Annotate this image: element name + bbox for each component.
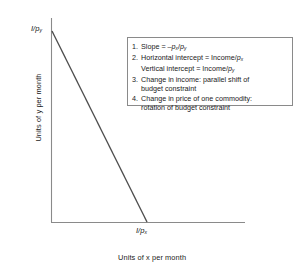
budget-constraint-figure: Units of y per month Units of x per mont…	[0, 0, 306, 278]
note-number: 4.	[132, 94, 141, 103]
note-number: 1.	[132, 42, 141, 51]
notes-legend-box: 1.Slope = –px/py2.Horizontal intercept =…	[127, 37, 293, 106]
vertical-intercept-label: I/py	[31, 24, 42, 33]
note-body: Change in income: parallel shift ofbudge…	[141, 75, 287, 93]
note-number: 3.	[132, 75, 141, 84]
horizontal-intercept-label: I/px	[136, 226, 147, 235]
note-number: 2.	[132, 53, 141, 62]
note-item: 3.Change in income: parallel shift ofbud…	[132, 75, 287, 93]
note-line: Vertical intercept = Income/py	[141, 64, 287, 75]
horizontal-intercept-subscript: x	[144, 229, 147, 235]
note-body: Horizontal intercept = Income/pxVertical…	[141, 53, 287, 75]
note-line: Change in price of one commodity:	[141, 94, 287, 103]
note-line: Horizontal intercept = Income/px	[141, 53, 287, 64]
note-line: rotation of budget constraint	[141, 103, 287, 112]
note-body: Change in price of one commodity:rotatio…	[141, 94, 287, 112]
note-item: 1.Slope = –px/py	[132, 42, 287, 53]
note-item: 2.Horizontal intercept = Income/pxVertic…	[132, 53, 287, 75]
vertical-intercept-subscript: y	[39, 27, 42, 33]
note-item: 4.Change in price of one commodity:rotat…	[132, 94, 287, 112]
note-line: Slope = –px/py	[141, 42, 287, 53]
note-body: Slope = –px/py	[141, 42, 287, 53]
notes-list: 1.Slope = –px/py2.Horizontal intercept =…	[132, 42, 287, 112]
note-line: budget constraint	[141, 84, 287, 93]
x-axis-title: Units of x per month	[118, 253, 186, 262]
y-axis-title: Units of y per month	[34, 23, 43, 193]
note-line: Change in income: parallel shift of	[141, 75, 287, 84]
